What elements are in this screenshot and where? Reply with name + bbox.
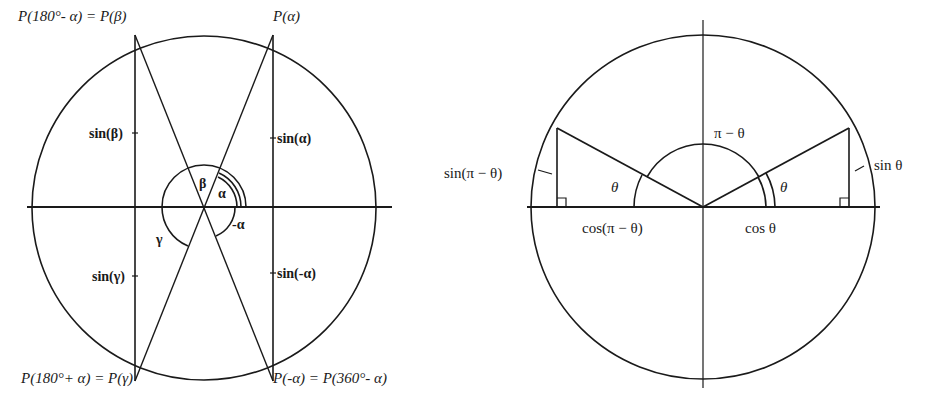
label-cos-theta: cos θ bbox=[745, 220, 776, 236]
label-theta-left: θ bbox=[611, 179, 619, 195]
label-point-alpha: P(α) bbox=[272, 8, 300, 25]
pointer-sin-pi-minus-theta bbox=[538, 170, 552, 174]
label-angle-beta: β bbox=[199, 176, 206, 191]
label-theta-right: θ bbox=[780, 179, 788, 195]
label-sin-beta: sin(β) bbox=[89, 126, 123, 142]
right-unit-circle-diagram: π − θ θ θ sin(π − θ) sin θ cos(π − θ) co… bbox=[444, 20, 902, 388]
label-sin-theta: sin θ bbox=[874, 157, 902, 173]
label-point-neg-alpha: P(-α) = P(360°- α) bbox=[272, 370, 387, 387]
arc-theta-right-2 bbox=[766, 173, 775, 207]
trig-diagrams-canvas: P(180°- α) = P(β) P(α) P(180°+ α) = P(γ)… bbox=[0, 0, 925, 397]
arc-theta-right-1 bbox=[758, 177, 766, 207]
label-angle-alpha: α bbox=[218, 186, 226, 201]
left-unit-circle-diagram: P(180°- α) = P(β) P(α) P(180°+ α) = P(γ)… bbox=[17, 8, 392, 387]
label-angle-gamma: γ bbox=[155, 232, 163, 247]
label-sin-alpha: sin(α) bbox=[277, 131, 312, 147]
right-angle-marker-left bbox=[557, 198, 566, 207]
pointer-sin-theta bbox=[855, 166, 864, 171]
label-cos-pi-minus-theta: cos(π − θ) bbox=[582, 220, 643, 237]
label-sin-gamma: sin(γ) bbox=[92, 269, 125, 285]
label-sin-neg-alpha: sin(-α) bbox=[277, 266, 316, 282]
label-point-beta: P(180°- α) = P(β) bbox=[17, 8, 127, 25]
label-point-gamma: P(180°+ α) = P(γ) bbox=[20, 370, 133, 387]
label-sin-pi-minus-theta: sin(π − θ) bbox=[444, 165, 502, 182]
right-angle-marker-right bbox=[840, 198, 849, 207]
arc-theta-left bbox=[634, 175, 642, 207]
label-angle-neg-alpha: -α bbox=[232, 217, 245, 232]
arc-gamma bbox=[162, 207, 188, 246]
radius-pi-minus-theta bbox=[557, 128, 703, 207]
label-pi-minus-theta: π − θ bbox=[714, 125, 745, 141]
